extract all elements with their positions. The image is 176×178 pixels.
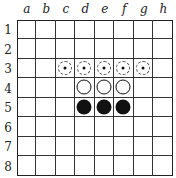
square-f3[interactable] — [114, 59, 134, 79]
square-h1[interactable] — [153, 20, 173, 40]
square-c5[interactable] — [56, 98, 76, 118]
square-g2[interactable] — [134, 39, 154, 59]
square-a2[interactable] — [17, 39, 37, 59]
move-hint-icon[interactable] — [116, 61, 130, 75]
square-d1[interactable] — [75, 20, 95, 40]
square-f5[interactable] — [114, 98, 134, 118]
square-c4[interactable] — [56, 78, 76, 98]
square-b3[interactable] — [36, 59, 56, 79]
square-f4[interactable] — [114, 78, 134, 98]
square-g7[interactable] — [134, 137, 154, 157]
column-label-e: e — [95, 2, 115, 16]
column-label-d: d — [76, 2, 96, 16]
row-label-5: 5 — [2, 101, 14, 115]
square-c1[interactable] — [56, 20, 76, 40]
column-label-h: h — [154, 2, 174, 16]
move-hint-icon[interactable] — [97, 61, 111, 75]
square-h2[interactable] — [153, 39, 173, 59]
square-c3[interactable] — [56, 59, 76, 79]
black-disc-icon — [77, 99, 92, 114]
square-f8[interactable] — [114, 156, 134, 176]
square-a4[interactable] — [17, 78, 37, 98]
square-g1[interactable] — [134, 20, 154, 40]
square-h6[interactable] — [153, 117, 173, 137]
row-label-7: 7 — [2, 140, 14, 154]
square-f7[interactable] — [114, 137, 134, 157]
square-c6[interactable] — [56, 117, 76, 137]
black-disc-icon — [96, 99, 111, 114]
move-hint-icon[interactable] — [77, 61, 91, 75]
square-e7[interactable] — [95, 137, 115, 157]
square-a7[interactable] — [17, 137, 37, 157]
square-d3[interactable] — [75, 59, 95, 79]
move-hint-icon[interactable] — [58, 61, 72, 75]
row-label-1: 1 — [2, 23, 14, 37]
square-f2[interactable] — [114, 39, 134, 59]
square-d8[interactable] — [75, 156, 95, 176]
column-label-f: f — [115, 2, 135, 16]
column-label-a: a — [17, 2, 37, 16]
row-label-6: 6 — [2, 121, 14, 135]
square-b4[interactable] — [36, 78, 56, 98]
square-a6[interactable] — [17, 117, 37, 137]
square-g4[interactable] — [134, 78, 154, 98]
square-a1[interactable] — [17, 20, 37, 40]
square-h7[interactable] — [153, 137, 173, 157]
column-label-g: g — [134, 2, 154, 16]
square-a8[interactable] — [17, 156, 37, 176]
square-e8[interactable] — [95, 156, 115, 176]
square-d2[interactable] — [75, 39, 95, 59]
white-disc-icon — [77, 80, 92, 95]
square-b7[interactable] — [36, 137, 56, 157]
square-h4[interactable] — [153, 78, 173, 98]
square-h3[interactable] — [153, 59, 173, 79]
square-g3[interactable] — [134, 59, 154, 79]
square-f6[interactable] — [114, 117, 134, 137]
square-d6[interactable] — [75, 117, 95, 137]
row-label-3: 3 — [2, 62, 14, 76]
row-label-2: 2 — [2, 43, 14, 57]
square-e4[interactable] — [95, 78, 115, 98]
square-b5[interactable] — [36, 98, 56, 118]
square-d5[interactable] — [75, 98, 95, 118]
square-d7[interactable] — [75, 137, 95, 157]
row-label-8: 8 — [2, 160, 14, 174]
square-c8[interactable] — [56, 156, 76, 176]
square-c2[interactable] — [56, 39, 76, 59]
black-disc-icon — [116, 99, 131, 114]
square-g6[interactable] — [134, 117, 154, 137]
square-h5[interactable] — [153, 98, 173, 118]
white-disc-icon — [96, 80, 111, 95]
square-e6[interactable] — [95, 117, 115, 137]
square-g8[interactable] — [134, 156, 154, 176]
square-f1[interactable] — [114, 20, 134, 40]
square-e5[interactable] — [95, 98, 115, 118]
square-a5[interactable] — [17, 98, 37, 118]
square-g5[interactable] — [134, 98, 154, 118]
move-hint-icon[interactable] — [136, 61, 150, 75]
game-board — [17, 20, 173, 176]
square-b2[interactable] — [36, 39, 56, 59]
square-e2[interactable] — [95, 39, 115, 59]
square-d4[interactable] — [75, 78, 95, 98]
square-b6[interactable] — [36, 117, 56, 137]
square-e1[interactable] — [95, 20, 115, 40]
square-h8[interactable] — [153, 156, 173, 176]
square-c7[interactable] — [56, 137, 76, 157]
white-disc-icon — [116, 80, 131, 95]
row-label-4: 4 — [2, 82, 14, 96]
square-b8[interactable] — [36, 156, 56, 176]
column-label-c: c — [56, 2, 76, 16]
column-label-b: b — [37, 2, 57, 16]
square-e3[interactable] — [95, 59, 115, 79]
square-a3[interactable] — [17, 59, 37, 79]
square-b1[interactable] — [36, 20, 56, 40]
